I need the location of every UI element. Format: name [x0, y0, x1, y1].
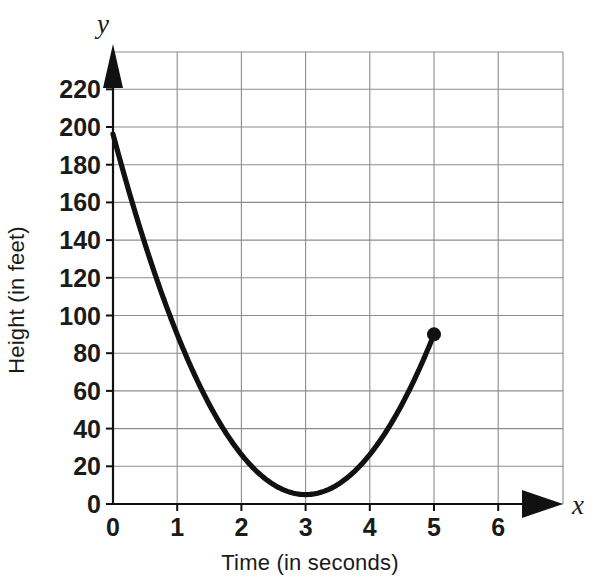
y-tick-label: 40	[73, 415, 101, 443]
y-tick-label: 20	[73, 452, 101, 480]
data-curve	[113, 134, 434, 495]
y-axis-title: Height (in feet)	[4, 226, 29, 374]
y-tick-label: 120	[59, 264, 101, 292]
y-tick-label: 140	[59, 226, 101, 254]
y-axis-arrow-icon	[103, 44, 123, 88]
x-tick-label: 3	[299, 513, 313, 541]
y-tick-labels: 020406080100120140160180200220	[59, 75, 101, 518]
y-axis-variable-label: y	[94, 9, 109, 39]
y-tick-label: 0	[87, 490, 101, 518]
x-axis-title: Time (in seconds)	[221, 550, 398, 575]
x-axis-arrow-icon	[522, 490, 563, 518]
y-tick-label: 100	[59, 302, 101, 330]
parabola-graph: 020406080100120140160180200220 0123456 y…	[0, 0, 596, 585]
endpoint-marker-dot	[427, 327, 441, 341]
x-axis-variable-label: x	[571, 490, 584, 520]
grid-lines	[113, 52, 563, 504]
x-tick-label: 0	[106, 513, 120, 541]
x-tick-label: 6	[491, 513, 505, 541]
x-tick-label: 1	[170, 513, 184, 541]
chart-canvas: 020406080100120140160180200220 0123456 y…	[0, 0, 596, 585]
y-tick-label: 160	[59, 188, 101, 216]
x-tick-labels: 0123456	[106, 513, 505, 541]
x-tick-label: 2	[234, 513, 248, 541]
x-tick-label: 5	[427, 513, 441, 541]
y-tick-label: 220	[59, 75, 101, 103]
y-tick-label: 180	[59, 151, 101, 179]
x-tick-label: 4	[363, 513, 377, 541]
y-tick-label: 200	[59, 113, 101, 141]
y-tick-label: 60	[73, 377, 101, 405]
y-tick-label: 80	[73, 339, 101, 367]
